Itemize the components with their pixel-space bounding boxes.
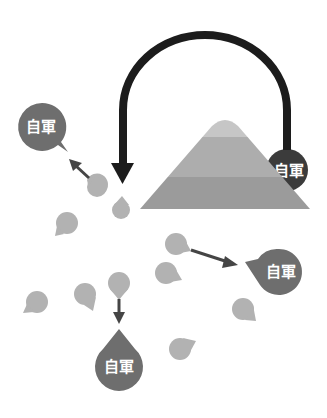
- ally-pin-bottom: 自軍: [95, 329, 143, 391]
- arrow-to-right-ally: [191, 250, 238, 268]
- ally-pin-right: 自軍: [245, 249, 302, 295]
- arrow-head-icon: [113, 312, 125, 324]
- arrow-shaft: [191, 250, 228, 262]
- arrow-shaft: [76, 166, 89, 178]
- ally-pin-top-left: 自軍: [18, 103, 68, 152]
- diagram-canvas: 自軍 自軍 自軍 自軍: [0, 0, 327, 418]
- pin-label: 自軍: [266, 263, 296, 281]
- pin-label: 自軍: [26, 118, 56, 136]
- arch-arrow-head-icon: [111, 163, 134, 184]
- neutral-pin-tip: [110, 289, 128, 300]
- pin-label: 自軍: [104, 358, 134, 376]
- mountain-band-top: [130, 110, 320, 137]
- arrow-head-icon: [222, 256, 238, 268]
- arrow-to-bottom-ally: [113, 299, 125, 324]
- neutral-pin-tip: [114, 196, 129, 205]
- arrow-to-top-left-ally: [69, 159, 89, 178]
